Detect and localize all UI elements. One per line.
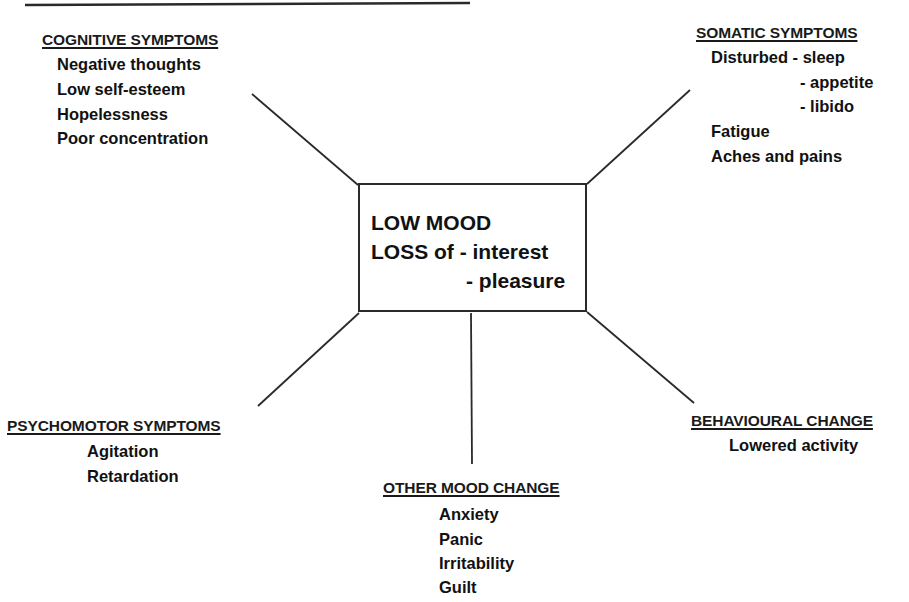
cognitive-item: Hopelessness — [57, 104, 168, 124]
other-mood-item: Guilt — [439, 577, 477, 597]
somatic-item: Fatigue — [711, 121, 770, 141]
cognitive-symptoms-heading: COGNITIVE SYMPTOMS — [42, 31, 218, 48]
cognitive-item: Low self-esteem — [57, 79, 185, 99]
other-mood-item: Panic — [439, 529, 483, 549]
core-symptom-loss-interest: LOSS of - interest — [371, 240, 548, 264]
connector-psychomotor — [258, 313, 359, 406]
somatic-item: - libido — [800, 96, 854, 116]
somatic-item: Aches and pains — [711, 146, 842, 166]
core-symptom-loss-pleasure: - pleasure — [466, 269, 565, 293]
depression-symptoms-diagram: LOW MOOD LOSS of - interest - pleasure C… — [0, 0, 909, 602]
other-mood-item: Irritability — [439, 553, 514, 573]
psychomotor-item: Retardation — [87, 466, 179, 486]
core-symptom-low-mood: LOW MOOD — [371, 211, 491, 235]
somatic-item: - appetite — [800, 72, 873, 92]
somatic-symptoms-heading: SOMATIC SYMPTOMS — [696, 24, 857, 41]
connector-other-mood — [471, 313, 472, 464]
cognitive-item: Poor concentration — [57, 128, 208, 148]
cognitive-item: Negative thoughts — [57, 54, 201, 74]
connector-cognitive — [252, 94, 358, 185]
behavioural-change-heading: BEHAVIOURAL CHANGE — [691, 412, 873, 429]
connector-somatic — [587, 90, 690, 184]
other-mood-item: Anxiety — [439, 504, 499, 524]
psychomotor-item: Agitation — [87, 441, 159, 461]
top-rule — [25, 3, 470, 5]
other-mood-change-heading: OTHER MOOD CHANGE — [383, 479, 560, 496]
psychomotor-symptoms-heading: PSYCHOMOTOR SYMPTOMS — [7, 417, 221, 434]
connector-behavioural — [587, 312, 694, 403]
somatic-item: Disturbed - sleep — [711, 47, 845, 67]
behavioural-item: Lowered activity — [729, 435, 858, 455]
